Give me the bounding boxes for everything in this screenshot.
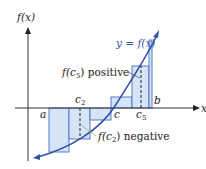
point-b-label: b [154, 94, 161, 106]
c2-subscript: 2 [81, 99, 85, 107]
point-c2-label: c2 [75, 93, 85, 107]
positive-prefix: f(c [61, 66, 76, 78]
x-axis-label: x [201, 102, 206, 114]
rect-1 [49, 108, 69, 152]
curve-label: y = f(x) [115, 37, 155, 49]
c5-subscript: 5 [142, 114, 146, 122]
point-a-label: a [40, 108, 46, 120]
curve-start-arrow-icon [33, 154, 40, 160]
point-c5-label: c5 [136, 108, 146, 122]
point-c-label: c [114, 108, 120, 120]
positive-suffix: ) positive [80, 66, 129, 78]
positive-annotation: f(c5) positive [61, 66, 129, 80]
negative-suffix: ) negative [116, 130, 169, 142]
y-axis-label: f(x) [16, 11, 35, 23]
rect-3 [90, 108, 111, 120]
diagram-svg: f(x) x y = f(x) a b c c2 c5 f(c5) positi… [0, 0, 206, 169]
riemann-sum-diagram: f(x) x y = f(x) a b c c2 c5 f(c5) positi… [0, 0, 206, 169]
negative-prefix: f(c [97, 130, 112, 142]
negative-annotation: f(c2) negative [97, 130, 169, 144]
y-axis-arrow-icon [25, 27, 31, 34]
x-axis-arrow-icon [193, 105, 200, 111]
